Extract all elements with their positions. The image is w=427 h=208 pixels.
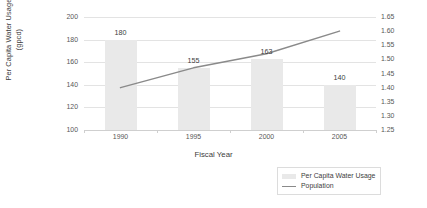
y-axis-title: Per Capita Water Usage (gpcd)	[4, 0, 23, 100]
x-axis-tickmark	[230, 130, 231, 133]
y-axis-right-tick-label: 1.40	[381, 85, 394, 92]
y-axis-left-tick-label: 140	[67, 82, 79, 89]
x-axis-tick-label: 1990	[113, 134, 128, 141]
y-axis-right-tick-label: 1.50	[381, 56, 394, 63]
legend-item-per-capita-water-usage[interactable]: Per Capita Water Usage	[282, 171, 375, 181]
y-axis-title-line1: Per Capita Water Usage	[4, 0, 14, 100]
y-axis-left-tick-label: 120	[67, 104, 79, 111]
y-axis-left-tick-label: 100	[67, 127, 79, 134]
legend-label-per-capita-water-usage: Per Capita Water Usage	[301, 173, 375, 180]
x-axis-tickmark	[376, 130, 377, 133]
x-axis-tickmark	[84, 130, 85, 133]
y-axis-right-tick-label: 1.55	[381, 42, 394, 49]
y-axis-left-tick-label: 200	[67, 14, 79, 21]
x-axis-tickmark	[303, 130, 304, 133]
bar-value-label: 180	[101, 29, 141, 36]
bar-value-label: 140	[320, 74, 360, 81]
y-axis-left-tick-label: 160	[67, 59, 79, 66]
x-axis-tick-label: 2005	[332, 134, 347, 141]
bar-value-label: 155	[174, 57, 214, 64]
y-axis-right-tick-label: 1.25	[381, 127, 394, 134]
y-axis-right-tick-label: 1.65	[381, 14, 394, 21]
legend-label-population: Population	[301, 183, 334, 190]
legend-line-swatch-icon	[282, 186, 296, 187]
y-axis-right-tick-label: 1.35	[381, 99, 394, 106]
y-axis-right-tick-label: 1.30	[381, 113, 394, 120]
x-axis-tick-label: 1995	[186, 134, 201, 141]
x-axis-title: Fiscal Year	[0, 151, 427, 159]
x-axis-tick-label: 2000	[259, 134, 274, 141]
y-axis-title-line2: (gpcd)	[14, 0, 24, 100]
y-axis-right-tick-label: 1.60	[381, 28, 394, 35]
bar-value-label: 163	[247, 48, 287, 55]
chart-legend: Per Capita Water Usage Population	[277, 167, 381, 195]
y-axis-right-tick-label: 1.45	[381, 71, 394, 78]
x-axis-ticks: 1990199520002005	[84, 134, 376, 146]
chart-figure: Per Capita Water Usage (gpcd) 1001201401…	[0, 0, 427, 208]
population-line-path	[121, 31, 340, 88]
y-axis-left-tick-label: 180	[67, 37, 79, 44]
legend-bar-swatch-icon	[282, 174, 296, 179]
x-axis-tickmark	[157, 130, 158, 133]
legend-item-population[interactable]: Population	[282, 181, 375, 191]
